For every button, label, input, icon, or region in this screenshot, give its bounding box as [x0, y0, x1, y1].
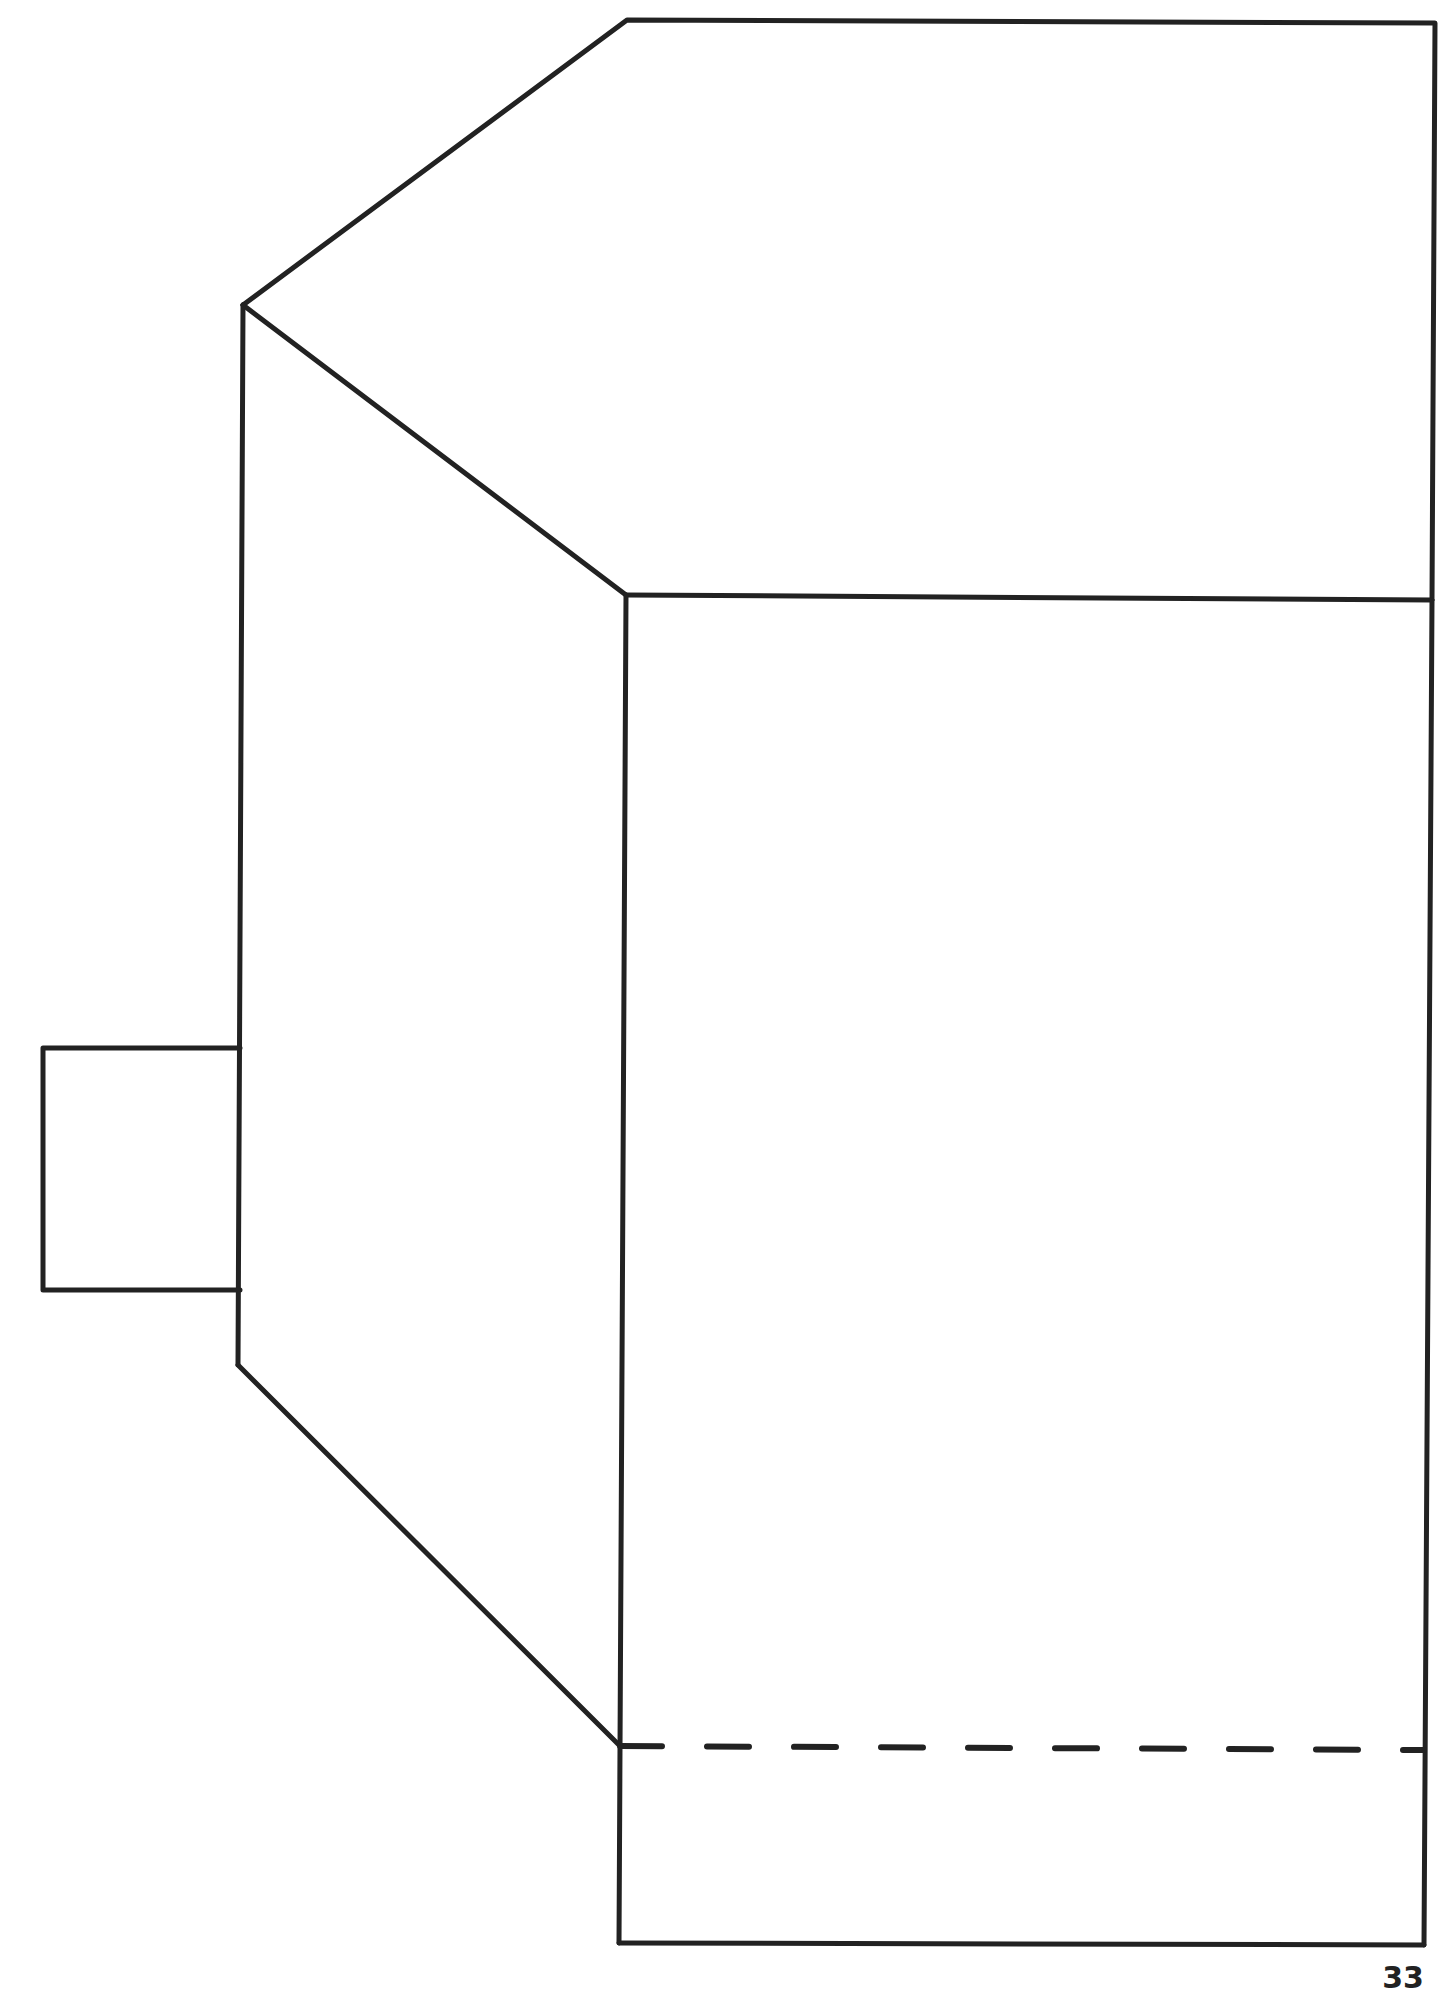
dashed-fold-line — [620, 1746, 1424, 1750]
left-tab — [43, 1048, 240, 1290]
box-net-diagram — [0, 0, 1448, 1997]
front-top-edge — [626, 595, 1432, 600]
side-bottom-edge — [238, 1365, 620, 1746]
side-left-edge — [238, 305, 243, 1365]
front-left-edge — [619, 595, 626, 1943]
front-bottom-edge — [619, 1943, 1424, 1945]
page-number: 33 — [1378, 1960, 1428, 1996]
side-top-edge — [243, 305, 626, 595]
front-right-edge — [1424, 600, 1432, 1945]
top-face-outline — [243, 20, 1435, 600]
